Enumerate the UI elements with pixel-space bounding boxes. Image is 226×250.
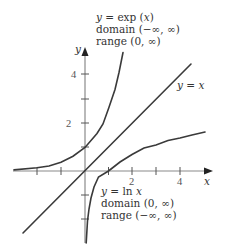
x-tick-label-4: 4: [177, 176, 183, 187]
exp-formula: y = exp (x): [95, 11, 154, 23]
ln-annotation: y = ln x domain (0, ∞) range (−∞, ∞): [100, 185, 176, 221]
exp-annotation: y = exp (x) domain (−∞, ∞) range (0, ∞): [95, 11, 180, 47]
ln-domain: domain (0, ∞): [101, 197, 174, 209]
exp-domain: domain (−∞, ∞): [96, 23, 180, 35]
ln-formula: y = ln x: [100, 185, 142, 197]
x-axis-arrow-icon: [204, 168, 213, 175]
identity-label: y = x: [176, 79, 204, 91]
x-axis-label: x: [204, 175, 210, 187]
exp-range: range (0, ∞): [96, 35, 161, 47]
exp-curve: [14, 53, 123, 170]
function-plot: 2 4 2 4 y x y = exp (x) domain (−∞, ∞) r…: [0, 0, 226, 250]
y-axis-label: y: [74, 43, 82, 55]
y-tick-label-2: 2: [66, 118, 71, 129]
ln-range: range (−∞, ∞): [101, 209, 176, 221]
y-tick-label-4: 4: [71, 69, 77, 80]
y-axis-arrow-icon: [82, 47, 89, 56]
